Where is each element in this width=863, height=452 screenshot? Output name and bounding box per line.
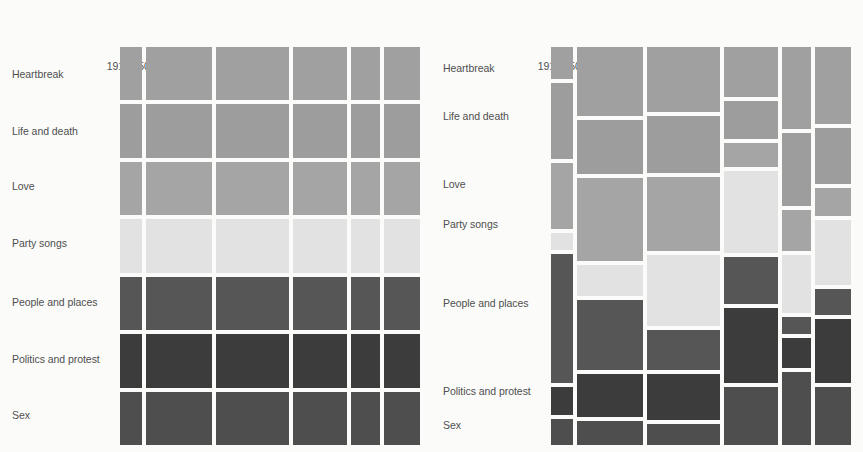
right-cell-heartbreak-2000s[interactable] [815,47,851,124]
left-cell-politics-and-protest-2000s[interactable] [384,334,420,387]
left-row-label-love: Love [12,180,35,192]
right-row-label-politics-and-protest: Politics and protest [443,385,531,397]
left-cell-people-and-places-1960s[interactable] [146,277,213,330]
right-row-label-heartbreak: Heartbreak [443,62,494,74]
right-cell-politics-and-protest-1910s-50s[interactable] [551,387,573,415]
left-cell-party-songs-2000s[interactable] [384,219,420,272]
left-cell-heartbreak-1910s-50s[interactable] [120,47,142,100]
right-cell-love-1970s[interactable] [647,177,720,252]
left-cell-love-1960s[interactable] [146,162,213,215]
left-cell-heartbreak-1960s[interactable] [146,47,213,100]
right-cell-heartbreak-1910s-50s[interactable] [551,47,573,79]
left-row-label-politics-and-protest: Politics and protest [12,353,100,365]
right-chart-panel: 1910s-50s 1960s 1970s 1980s 1990s 2000s … [431,0,863,452]
right-row-label-party-songs: Party songs [443,218,498,230]
right-cell-politics-and-protest-2000s[interactable] [815,319,851,383]
right-cell-life-and-death-2000s[interactable] [815,128,851,184]
right-cell-people-and-places-1980s[interactable] [724,257,778,304]
left-cell-people-and-places-1980s[interactable] [293,277,347,330]
right-cell-heartbreak-1990s[interactable] [782,47,811,129]
left-cell-people-and-places-1990s[interactable] [351,277,380,330]
right-cell-life-and-death-1980s[interactable] [724,101,778,138]
left-cell-love-2000s[interactable] [384,162,420,215]
right-cell-heartbreak-1960s[interactable] [577,47,644,116]
right-cell-life-and-death-1960s[interactable] [577,120,644,174]
left-cell-sex-1990s[interactable] [351,392,380,445]
left-cell-heartbreak-2000s[interactable] [384,47,420,100]
right-cell-sex-1990s[interactable] [782,372,811,445]
right-cell-party-songs-1990s[interactable] [782,255,811,313]
left-cell-politics-and-protest-1970s[interactable] [216,334,289,387]
left-cell-love-1910s-50s[interactable] [120,162,142,215]
left-cell-people-and-places-1910s-50s[interactable] [120,277,142,330]
right-row-label-people-and-places: People and places [443,297,529,309]
right-cell-people-and-places-1960s[interactable] [577,300,644,369]
right-cell-party-songs-1980s[interactable] [724,171,778,253]
right-cell-sex-1910s-50s[interactable] [551,419,573,445]
right-cell-party-songs-1960s[interactable] [577,265,644,297]
right-cell-life-and-death-1910s-50s[interactable] [551,83,573,160]
left-cell-heartbreak-1990s[interactable] [351,47,380,100]
right-cell-sex-1970s[interactable] [647,424,720,445]
right-cell-love-2000s[interactable] [815,188,851,216]
right-cell-heartbreak-1970s[interactable] [647,47,720,112]
right-row-label-love: Love [443,178,466,190]
left-row-label-party-songs: Party songs [12,237,67,249]
right-cell-love-1910s-50s[interactable] [551,163,573,228]
right-cell-love-1960s[interactable] [577,178,644,260]
right-cell-politics-and-protest-1990s[interactable] [782,338,811,368]
right-cell-politics-and-protest-1970s[interactable] [647,374,720,421]
left-cell-life-and-death-1980s[interactable] [293,104,347,157]
left-cell-love-1970s[interactable] [216,162,289,215]
left-cell-politics-and-protest-1960s[interactable] [146,334,213,387]
left-row-label-heartbreak: Heartbreak [12,68,63,80]
left-cell-sex-2000s[interactable] [384,392,420,445]
left-cell-party-songs-1970s[interactable] [216,219,289,272]
left-cell-politics-and-protest-1980s[interactable] [293,334,347,387]
left-cell-love-1980s[interactable] [293,162,347,215]
left-cell-sex-1960s[interactable] [146,392,213,445]
right-cell-people-and-places-1970s[interactable] [647,330,720,369]
left-cell-sex-1980s[interactable] [293,392,347,445]
right-mosaic-plot-area [551,47,851,445]
left-cell-party-songs-1980s[interactable] [293,219,347,272]
left-row-label-sex: Sex [12,409,30,421]
right-cell-politics-and-protest-1980s[interactable] [724,308,778,383]
left-cell-heartbreak-1980s[interactable] [293,47,347,100]
right-cell-people-and-places-2000s[interactable] [815,289,851,315]
left-row-label-people-and-places: People and places [12,296,98,308]
right-cell-sex-2000s[interactable] [815,387,851,445]
right-cell-love-1980s[interactable] [724,143,778,167]
right-row-label-sex: Sex [443,419,461,431]
left-cell-life-and-death-1990s[interactable] [351,104,380,157]
right-cell-people-and-places-1990s[interactable] [782,317,811,334]
left-cell-life-and-death-2000s[interactable] [384,104,420,157]
left-cell-love-1990s[interactable] [351,162,380,215]
left-cell-heartbreak-1970s[interactable] [216,47,289,100]
left-cell-life-and-death-1970s[interactable] [216,104,289,157]
right-cell-life-and-death-1970s[interactable] [647,116,720,172]
left-cell-people-and-places-2000s[interactable] [384,277,420,330]
right-cell-party-songs-2000s[interactable] [815,220,851,285]
left-cell-politics-and-protest-1910s-50s[interactable] [120,334,142,387]
left-cell-party-songs-1990s[interactable] [351,219,380,272]
left-row-label-life-and-death: Life and death [12,125,78,137]
left-cell-party-songs-1960s[interactable] [146,219,213,272]
right-cell-sex-1980s[interactable] [724,387,778,445]
left-cell-party-songs-1910s-50s[interactable] [120,219,142,272]
right-cell-life-and-death-1990s[interactable] [782,133,811,206]
left-cell-politics-and-protest-1990s[interactable] [351,334,380,387]
left-cell-life-and-death-1910s-50s[interactable] [120,104,142,157]
right-cell-heartbreak-1980s[interactable] [724,47,778,97]
right-cell-love-1990s[interactable] [782,210,811,251]
right-cell-people-and-places-1910s-50s[interactable] [551,254,573,383]
right-cell-party-songs-1970s[interactable] [647,255,720,326]
right-cell-politics-and-protest-1960s[interactable] [577,374,644,417]
right-cell-sex-1960s[interactable] [577,421,644,445]
left-cell-life-and-death-1960s[interactable] [146,104,213,157]
left-cell-people-and-places-1970s[interactable] [216,277,289,330]
left-cell-sex-1970s[interactable] [216,392,289,445]
left-mosaic-plot-area [120,47,420,445]
left-cell-sex-1910s-50s[interactable] [120,392,142,445]
right-cell-party-songs-1910s-50s[interactable] [551,233,573,250]
